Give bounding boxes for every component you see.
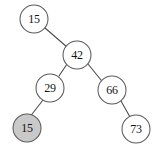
node-label-42: 42 [71, 48, 83, 62]
node-29[interactable]: 29 [36, 74, 64, 102]
edge-42-to-29 [59, 64, 67, 76]
tree-canvas: 15 42 29 66 15 73 [0, 0, 159, 147]
binary-tree-diagram: 15 42 29 66 15 73 [0, 0, 159, 147]
edge-66-to-73 [121, 101, 130, 117]
node-label-73: 73 [130, 122, 142, 136]
node-42[interactable]: 42 [63, 41, 91, 69]
node-66[interactable]: 66 [98, 76, 126, 104]
node-label-highlighted-15: 15 [21, 121, 33, 135]
edge-42-to-66 [88, 64, 101, 80]
node-label-root-15: 15 [28, 12, 40, 26]
edge-root15-to-42 [45, 28, 67, 47]
node-label-66: 66 [106, 83, 118, 97]
node-highlighted-15[interactable]: 15 [13, 114, 41, 142]
node-label-29: 29 [44, 81, 56, 95]
node-root-15[interactable]: 15 [20, 5, 48, 33]
node-73[interactable]: 73 [122, 115, 150, 143]
